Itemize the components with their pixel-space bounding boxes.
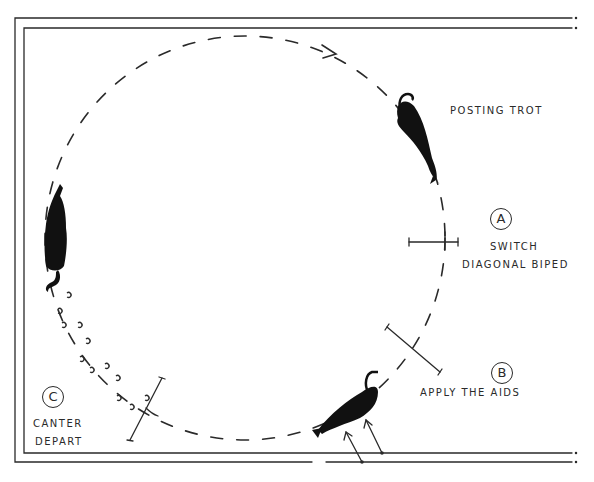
point-a-marker: A [490, 208, 512, 230]
horse-bottom-icon [312, 372, 378, 438]
arena-diagram: POSTING TROT A SWITCH DIAGONAL BIPED B A… [0, 0, 594, 482]
diagonal-biped-label: DIAGONAL BIPED [462, 259, 569, 270]
posting-trot-label: POSTING TROT [450, 105, 543, 116]
depart-label: DEPART [35, 436, 83, 447]
point-b-marker: B [491, 362, 513, 384]
horse-posting-trot-icon [397, 94, 440, 184]
circle-path [45, 36, 445, 440]
switch-label: SWITCH [490, 241, 538, 252]
apply-aids-label: APPLY THE AIDS [420, 387, 520, 398]
marker-b [385, 324, 442, 375]
point-c-marker: C [42, 386, 64, 408]
horse-left-icon [45, 184, 67, 292]
hoofprints [58, 292, 149, 409]
canter-label: CANTER [33, 418, 83, 429]
aid-arrows [344, 420, 382, 462]
marker-a [409, 232, 458, 250]
